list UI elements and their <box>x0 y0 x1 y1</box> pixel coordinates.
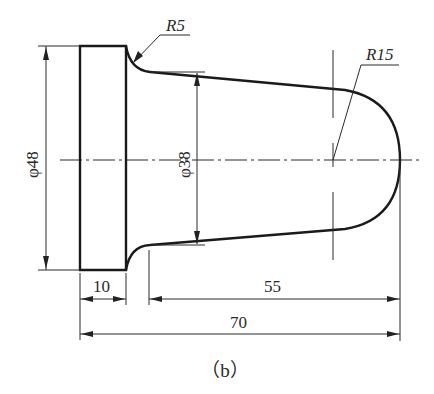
dimension-10: 10 <box>80 277 126 302</box>
r5-label: R5 <box>165 16 185 35</box>
technical-drawing: φ48 φ38 R5 R15 10 55 <box>0 0 434 394</box>
r15-label: R15 <box>365 45 393 64</box>
length-10-label: 10 <box>93 277 110 296</box>
part-outline <box>80 46 400 270</box>
length-70-label: 70 <box>230 313 247 332</box>
dimension-r15: R15 <box>333 45 399 160</box>
dimension-phi48: φ48 <box>23 46 80 270</box>
dimension-70: 70 <box>80 313 400 337</box>
dimension-phi38: φ38 <box>150 72 205 245</box>
figure-caption: （b） <box>8 355 434 382</box>
phi38-label: φ38 <box>175 151 194 178</box>
dimension-55: 55 <box>149 277 400 302</box>
dimension-r5: R5 <box>133 16 190 63</box>
phi48-label: φ48 <box>23 151 42 178</box>
length-55-label: 55 <box>264 277 281 296</box>
